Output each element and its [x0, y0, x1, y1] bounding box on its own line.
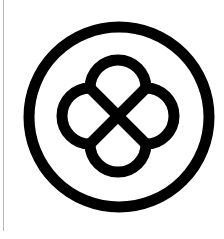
quatrefoil-knot-logo-icon	[0, 0, 224, 239]
